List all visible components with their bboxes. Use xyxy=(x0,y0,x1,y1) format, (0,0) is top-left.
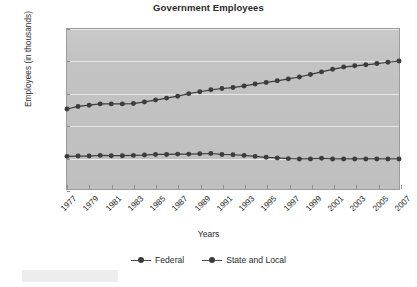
scan-artifact xyxy=(22,270,118,282)
data-point xyxy=(264,155,269,160)
chart-legend: Federal State and Local xyxy=(0,255,417,265)
data-point xyxy=(264,80,269,85)
legend-label: Federal xyxy=(155,255,184,265)
data-point xyxy=(397,156,402,161)
data-point xyxy=(186,91,191,96)
x-axis-title: Years xyxy=(0,229,417,239)
legend-item-federal[interactable]: Federal xyxy=(131,255,184,265)
data-point xyxy=(153,152,158,157)
data-point xyxy=(120,101,125,106)
data-point xyxy=(341,65,346,70)
line-marker-icon xyxy=(202,256,222,265)
government-employees-line-chart: Government Employees Employees (in thous… xyxy=(0,0,417,287)
data-point xyxy=(164,96,169,101)
legend-label: State and Local xyxy=(226,255,286,265)
data-point xyxy=(397,59,402,64)
data-point xyxy=(352,156,357,161)
data-point xyxy=(242,153,247,158)
data-point xyxy=(142,153,147,158)
data-point xyxy=(76,154,81,159)
data-point xyxy=(142,99,147,104)
data-point xyxy=(109,101,114,106)
data-point xyxy=(109,153,114,158)
data-point xyxy=(363,62,368,67)
series-line xyxy=(67,61,399,109)
data-point xyxy=(197,151,202,156)
data-point xyxy=(231,152,236,157)
data-point xyxy=(120,153,125,158)
data-point xyxy=(385,156,390,161)
data-point xyxy=(330,67,335,72)
data-point xyxy=(175,152,180,157)
data-point xyxy=(242,83,247,88)
data-point xyxy=(297,156,302,161)
data-point xyxy=(374,61,379,66)
y-tick-mark xyxy=(67,191,70,192)
data-point xyxy=(319,156,324,161)
data-point xyxy=(65,107,70,112)
data-point xyxy=(208,151,213,156)
data-point xyxy=(98,153,103,158)
data-point xyxy=(286,76,291,81)
data-point xyxy=(131,101,136,106)
data-point xyxy=(253,154,258,159)
data-point xyxy=(308,156,313,161)
data-point xyxy=(297,75,302,80)
data-point xyxy=(231,85,236,90)
data-point xyxy=(98,101,103,106)
data-point xyxy=(341,156,346,161)
data-point xyxy=(164,152,169,157)
chart-title: Government Employees xyxy=(0,2,417,13)
series-plot xyxy=(67,29,399,189)
data-point xyxy=(197,89,202,94)
legend-item-state-and-local[interactable]: State and Local xyxy=(202,255,286,265)
data-point xyxy=(219,86,224,91)
data-point xyxy=(308,72,313,77)
series-state-and-local xyxy=(65,59,402,112)
data-point xyxy=(330,156,335,161)
x-tick-mark xyxy=(401,185,402,189)
data-point xyxy=(275,78,280,83)
data-point xyxy=(219,152,224,157)
data-point xyxy=(65,154,70,159)
data-point xyxy=(286,156,291,161)
data-point xyxy=(253,82,258,87)
data-point xyxy=(76,104,81,109)
line-marker-icon xyxy=(131,256,151,265)
plot-area xyxy=(66,28,400,190)
data-point xyxy=(363,156,368,161)
y-axis-title: Employees (in thousands) xyxy=(23,0,33,139)
data-point xyxy=(131,153,136,158)
data-point xyxy=(352,63,357,68)
data-point xyxy=(153,98,158,103)
data-point xyxy=(175,94,180,99)
data-point xyxy=(319,69,324,74)
data-point xyxy=(87,154,92,159)
series-federal xyxy=(65,151,402,161)
data-point xyxy=(374,156,379,161)
data-point xyxy=(87,103,92,108)
data-point xyxy=(208,87,213,92)
data-point xyxy=(275,155,280,160)
data-point xyxy=(385,60,390,65)
data-point xyxy=(186,152,191,157)
